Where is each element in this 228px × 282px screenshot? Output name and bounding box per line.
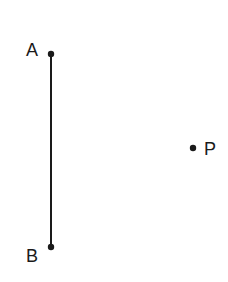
label-a: A (26, 40, 38, 60)
point-b (48, 244, 54, 250)
point-p (190, 145, 196, 151)
point-a (48, 51, 54, 57)
label-p: P (204, 139, 216, 159)
label-b: B (26, 246, 38, 266)
geometry-diagram: A B P (0, 0, 228, 282)
